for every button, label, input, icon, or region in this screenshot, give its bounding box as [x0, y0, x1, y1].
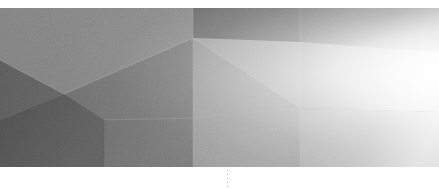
banner-facet-canvas — [0, 8, 439, 167]
divider-dot — [227, 174, 228, 175]
facet-center-lower-slab — [104, 118, 193, 167]
abstract-banner-image — [0, 8, 439, 167]
divider-dot — [227, 170, 228, 171]
banner-top-margin — [0, 0, 439, 8]
divider-dot — [227, 182, 228, 183]
facet-right-lower-panel — [300, 108, 439, 167]
page-root — [0, 0, 439, 189]
divider-dot — [227, 186, 228, 187]
banner-bottom-margin — [0, 167, 439, 189]
facet-upper-center-dark — [193, 8, 300, 42]
facet-right-upper-panel — [300, 42, 439, 112]
vertical-dotted-divider — [227, 168, 228, 189]
divider-dot — [227, 178, 228, 179]
